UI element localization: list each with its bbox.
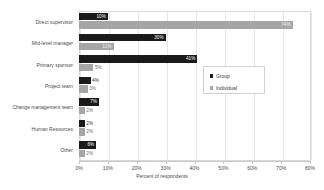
x-axis-tick bbox=[79, 161, 80, 164]
category-label: Other bbox=[0, 147, 73, 153]
bar-value-label: 2% bbox=[86, 150, 93, 157]
bar-value-label: 6% bbox=[87, 141, 94, 148]
bar-value-label: 41% bbox=[186, 55, 196, 62]
bar-group-row: 2%2% bbox=[79, 118, 311, 139]
bar-value-label: 2% bbox=[86, 107, 93, 114]
bar-group: 6% bbox=[79, 141, 96, 148]
bar-group: 4% bbox=[79, 77, 91, 84]
bar-value-label: 3% bbox=[89, 85, 96, 92]
bar-group-row: 10%74% bbox=[79, 11, 311, 32]
bar-individual: 3% bbox=[79, 85, 88, 92]
legend-swatch-group-icon bbox=[210, 74, 213, 77]
legend-item-individual: Individual bbox=[210, 83, 264, 93]
x-axis-tick-label: 70% bbox=[276, 165, 286, 172]
bar-group-row: 41%5% bbox=[79, 54, 311, 75]
bar-individual: 12% bbox=[79, 43, 114, 50]
x-axis-tick-label: 20% bbox=[132, 165, 142, 172]
x-axis-tick bbox=[108, 161, 109, 164]
bar-group-row: 7%2% bbox=[79, 97, 311, 118]
category-axis: Direct supervisorMid-level managerPrimar… bbox=[0, 11, 76, 161]
x-axis-tick-label: 80% bbox=[305, 165, 315, 172]
legend: Group Individual bbox=[203, 66, 265, 94]
bar-value-label: 7% bbox=[90, 98, 97, 105]
x-axis-tick bbox=[252, 161, 253, 164]
bar-value-label: 10% bbox=[96, 13, 106, 20]
x-axis-tick bbox=[223, 161, 224, 164]
legend-swatch-individual-icon bbox=[210, 86, 213, 89]
bar-group: 41% bbox=[79, 55, 197, 62]
category-label: Mid-level manager bbox=[0, 40, 73, 46]
x-axis-title: Percent of respondents bbox=[0, 173, 324, 179]
category-label: Project team bbox=[0, 83, 73, 89]
legend-label-individual: Individual bbox=[216, 85, 237, 91]
legend-label-group: Group bbox=[216, 73, 230, 79]
bar-value-label: 2% bbox=[86, 120, 93, 127]
bar-group: 30% bbox=[79, 34, 166, 41]
bar-individual: 2% bbox=[79, 150, 85, 157]
x-axis-tick-label: 0% bbox=[75, 165, 82, 172]
category-label: Direct supervisor bbox=[0, 19, 73, 25]
bar-value-label: 74% bbox=[281, 21, 291, 28]
bar-chart: Direct supervisorMid-level managerPrimar… bbox=[0, 0, 324, 190]
x-axis-tick bbox=[195, 161, 196, 164]
bar-individual: 2% bbox=[79, 128, 85, 135]
bar-group-row: 30%12% bbox=[79, 32, 311, 53]
category-label: Primary sponsor bbox=[0, 62, 73, 68]
x-axis-tick-label: 50% bbox=[218, 165, 228, 172]
bars-layer: 10%74%30%12%41%5%4%3%7%2%2%2%6%2% bbox=[79, 11, 311, 161]
x-axis-tick bbox=[281, 161, 282, 164]
gridline bbox=[311, 12, 312, 160]
bar-value-label: 4% bbox=[92, 77, 99, 84]
bar-individual: 5% bbox=[79, 64, 93, 71]
x-axis-tick-label: 60% bbox=[247, 165, 257, 172]
category-label: Change management team bbox=[0, 104, 73, 110]
bar-value-label: 30% bbox=[154, 34, 164, 41]
legend-item-group: Group bbox=[210, 71, 264, 81]
bar-group: 7% bbox=[79, 98, 99, 105]
bar-group-row: 4%3% bbox=[79, 75, 311, 96]
x-axis-tick-label: 30% bbox=[161, 165, 171, 172]
x-axis-tick bbox=[310, 161, 311, 164]
bar-group-row: 6%2% bbox=[79, 140, 311, 161]
bar-value-label: 2% bbox=[86, 128, 93, 135]
category-label: Human Resources bbox=[0, 126, 73, 132]
bar-individual: 74% bbox=[79, 21, 293, 28]
bar-value-label: 5% bbox=[95, 64, 102, 71]
bar-value-label: 12% bbox=[102, 43, 112, 50]
x-axis-tick bbox=[166, 161, 167, 164]
bar-group: 10% bbox=[79, 13, 108, 20]
x-axis-tick-label: 10% bbox=[103, 165, 113, 172]
x-axis-tick bbox=[137, 161, 138, 164]
x-axis-tick-label: 40% bbox=[189, 165, 199, 172]
bar-group: 2% bbox=[79, 120, 85, 127]
bar-individual: 2% bbox=[79, 107, 85, 114]
